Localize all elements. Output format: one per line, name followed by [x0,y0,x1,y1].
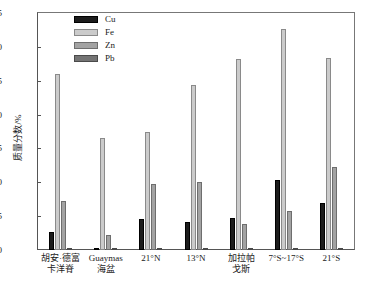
y-tick-label: 15 [0,143,2,153]
y-tick-label: 20 [0,110,2,120]
x-tick-label: 21°S [294,253,365,264]
y-tick-mark [37,81,41,82]
bar-cu [139,219,144,250]
legend: CuFeZnPb [74,14,116,66]
y-tick-label: 35 [0,8,2,18]
bar-cu [275,180,280,250]
bar-fe [236,59,241,250]
y-tick-label: 30 [0,42,2,52]
bar-fe [55,74,60,250]
legend-item-cu: Cu [74,14,116,25]
bar-pb [67,248,72,250]
bar-pb [203,248,208,250]
legend-label: Pb [105,54,115,63]
bar-pb [157,248,162,250]
y-tick-label: 10 [0,177,2,187]
y-axis-title: 质量分数/% [11,95,24,181]
y-tick-mark [37,148,41,149]
legend-swatch-icon [74,16,98,23]
y-tick-mark [37,182,41,183]
legend-item-zn: Zn [74,40,116,51]
legend-label: Fe [105,28,114,37]
bar-pb [248,248,253,250]
y-tick-label: 25 [0,76,2,86]
legend-swatch-icon [74,42,98,49]
legend-label: Zn [105,41,115,50]
bar-fe [191,85,196,250]
bar-zn [242,224,247,250]
bar-cu [94,248,99,250]
y-tick-mark [37,47,41,48]
bar-pb [112,248,117,250]
legend-label: Cu [105,15,116,24]
bar-zn [106,235,111,250]
bar-fe [326,58,331,250]
bar-pb [338,248,343,250]
bar-zn [151,184,156,250]
y-tick-mark [37,216,41,217]
bar-cu [185,222,190,250]
y-tick-label: 0 [0,245,2,255]
legend-item-fe: Fe [74,27,116,38]
bar-cu [49,232,54,250]
bar-fe [100,138,105,250]
bar-chart: 质量分数/% CuFeZnPb 05101520253035胡安·德富 卡洋脊G… [0,0,365,288]
bar-zn [287,211,292,250]
bar-zn [332,167,337,250]
legend-swatch-icon [74,29,98,36]
y-tick-label: 5 [0,211,2,221]
bar-fe [281,29,286,250]
bar-fe [145,132,150,251]
bar-cu [320,203,325,250]
legend-item-pb: Pb [74,53,116,64]
bar-pb [293,248,298,250]
y-tick-mark [37,115,41,116]
bar-zn [197,182,202,250]
legend-swatch-icon [74,55,98,62]
bar-cu [230,218,235,250]
bar-zn [61,201,66,250]
